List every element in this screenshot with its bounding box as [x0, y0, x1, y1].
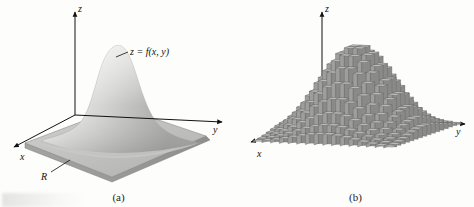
prism	[314, 132, 318, 145]
panel-a-plot: z x y z = f(x, y) R	[0, 0, 237, 207]
prism	[323, 133, 327, 146]
x-axis-label: x	[256, 148, 262, 159]
region-label: R	[40, 171, 47, 182]
caption-a: (a)	[0, 191, 237, 203]
panel-b-riemann-prisms: z x y (b)	[237, 0, 474, 207]
caption-b: (b)	[237, 191, 474, 203]
panel-b-plot: z x y	[237, 0, 474, 207]
figure-container: z x y z = f(x, y) R (a)	[0, 0, 474, 207]
surface-z-equals-f	[30, 45, 202, 158]
x-axis-label: x	[19, 151, 25, 162]
y-axis-label: y	[455, 126, 461, 137]
z-axis-label: z	[324, 3, 329, 14]
z-axis-label: z	[77, 3, 82, 14]
panel-a-smooth-surface: z x y z = f(x, y) R (a)	[0, 0, 237, 207]
surface-label: z = f(x, y)	[129, 46, 170, 58]
y-axis-label: y	[212, 124, 218, 135]
prism-grid	[253, 45, 461, 148]
